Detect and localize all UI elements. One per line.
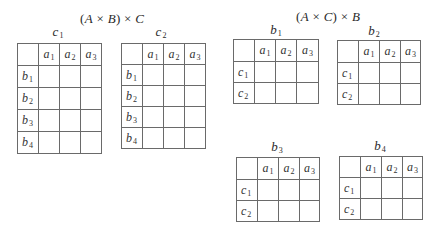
table-c1: a1 a2 a3 b1 b2 b3 b4 (17, 43, 102, 154)
empty-cell (164, 128, 185, 149)
corner-cell (122, 44, 143, 65)
times-symbol: × (121, 11, 136, 26)
col-header-a3: a3 (300, 158, 320, 180)
empty-cell (380, 63, 401, 84)
col-header-a1: a1 (361, 157, 382, 178)
col-header-a2: a2 (380, 41, 401, 63)
table-label-c1: c1 (53, 24, 64, 40)
table-b4: a1 a2 a3 c1 c2 (339, 156, 423, 220)
col-header-a2: a2 (382, 157, 403, 178)
table-b1: a1 a2 a3 c1 c2 (233, 39, 319, 104)
row-header-c1: c1 (237, 180, 258, 201)
empty-cell (60, 66, 81, 88)
row-header-b4: b4 (122, 128, 143, 149)
empty-cell (143, 65, 164, 86)
col-header-a3: a3 (185, 44, 206, 65)
row-header-c2: c2 (338, 84, 359, 105)
col-header-a3: a3 (401, 41, 421, 63)
empty-cell (81, 66, 102, 88)
empty-cell (276, 83, 297, 104)
col-header-a1: a1 (359, 41, 380, 63)
empty-cell (164, 65, 185, 86)
row-header-c1: c1 (340, 178, 361, 199)
empty-cell (39, 66, 60, 88)
corner-cell (338, 41, 359, 63)
row-header-b1: b1 (18, 66, 39, 88)
right-group-title: (A × C) × B (296, 9, 360, 25)
table-b2: a1 a2 a3 c1 c2 (337, 40, 421, 105)
row-header-c2: c2 (237, 201, 258, 222)
row-header-b4: b4 (18, 132, 39, 154)
row-header-b3: b3 (18, 110, 39, 132)
times-symbol: × (337, 9, 352, 24)
empty-cell (255, 62, 276, 83)
empty-cell (401, 84, 421, 105)
row-header-c1: c1 (234, 62, 255, 83)
set-a: A (85, 11, 93, 26)
empty-cell (81, 132, 102, 154)
col-header-a1: a1 (258, 158, 279, 180)
col-header-a2: a2 (164, 44, 185, 65)
empty-cell (361, 199, 382, 220)
row-header-b1: b1 (122, 65, 143, 86)
empty-cell (185, 128, 206, 149)
empty-cell (300, 180, 320, 201)
empty-cell (359, 84, 380, 105)
empty-cell (403, 178, 423, 199)
corner-cell (18, 44, 39, 66)
empty-cell (359, 63, 380, 84)
row-header-b2: b2 (18, 88, 39, 110)
times-symbol: × (93, 11, 108, 26)
empty-cell (401, 63, 421, 84)
row-header-c1: c1 (338, 63, 359, 84)
empty-cell (297, 83, 319, 104)
corner-cell (234, 40, 255, 62)
empty-cell (382, 199, 403, 220)
col-header-a3: a3 (403, 157, 423, 178)
empty-cell (164, 107, 185, 128)
empty-cell (81, 110, 102, 132)
empty-cell (185, 65, 206, 86)
set-b: B (352, 9, 360, 24)
empty-cell (258, 201, 279, 222)
set-c: C (135, 11, 144, 26)
empty-cell (60, 110, 81, 132)
empty-cell (81, 88, 102, 110)
empty-cell (361, 178, 382, 199)
left-group-title: (A × B) × C (80, 11, 144, 27)
empty-cell (300, 201, 320, 222)
empty-cell (143, 128, 164, 149)
empty-cell (380, 84, 401, 105)
empty-cell (279, 180, 300, 201)
empty-cell (39, 132, 60, 154)
empty-cell (143, 86, 164, 107)
col-header-a2: a2 (279, 158, 300, 180)
set-c: C (324, 9, 333, 24)
col-header-a2: a2 (60, 44, 81, 66)
col-header-a3: a3 (297, 40, 319, 62)
empty-cell (164, 86, 185, 107)
empty-cell (39, 88, 60, 110)
set-b: B (108, 11, 116, 26)
row-header-b3: b3 (122, 107, 143, 128)
table-b3: a1 a2 a3 c1 c2 (236, 157, 320, 222)
row-header-c2: c2 (234, 83, 255, 104)
table-label-b3: b3 (271, 139, 283, 155)
col-header-a3: a3 (81, 44, 102, 66)
empty-cell (60, 88, 81, 110)
row-header-b2: b2 (122, 86, 143, 107)
empty-cell (403, 199, 423, 220)
set-a: A (301, 9, 309, 24)
times-symbol: × (309, 9, 324, 24)
empty-cell (258, 180, 279, 201)
empty-cell (185, 86, 206, 107)
corner-cell (237, 158, 258, 180)
empty-cell (60, 132, 81, 154)
corner-cell (340, 157, 361, 178)
empty-cell (297, 62, 319, 83)
empty-cell (382, 178, 403, 199)
table-c2: a1 a2 a3 b1 b2 b3 b4 (121, 43, 206, 149)
col-header-a1: a1 (255, 40, 276, 62)
col-header-a2: a2 (276, 40, 297, 62)
empty-cell (39, 110, 60, 132)
